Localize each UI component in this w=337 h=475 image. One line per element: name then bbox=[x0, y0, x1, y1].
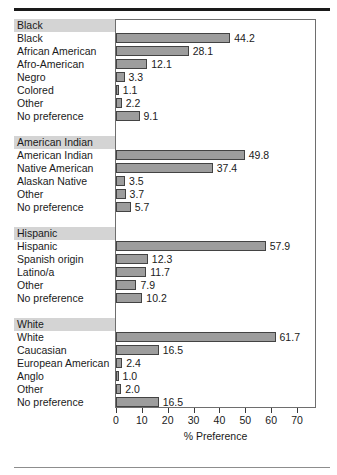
category-row: Black bbox=[14, 32, 115, 45]
x-tick bbox=[168, 408, 169, 413]
category-label: Caucasian bbox=[14, 344, 115, 357]
category-label: Spanish origin bbox=[14, 253, 115, 266]
category-row: Anglo bbox=[14, 370, 115, 383]
x-tick-label: 40 bbox=[207, 414, 231, 426]
category-row: Negro bbox=[14, 71, 115, 84]
plot-frame bbox=[115, 19, 316, 408]
category-label: Other bbox=[14, 188, 115, 201]
category-row: No preference bbox=[14, 110, 115, 123]
x-tick bbox=[245, 408, 246, 413]
category-row: Spanish origin bbox=[14, 253, 115, 266]
category-label-column: BlackBlackAfrican AmericanAfro-AmericanN… bbox=[14, 19, 115, 408]
category-row: Hispanic bbox=[14, 240, 115, 253]
group-header-white: White bbox=[14, 318, 115, 331]
x-tick bbox=[142, 408, 143, 413]
category-row: European American bbox=[14, 357, 115, 370]
category-label: Other bbox=[14, 97, 115, 110]
category-label: Anglo bbox=[14, 370, 115, 383]
x-tick-label: 50 bbox=[233, 414, 257, 426]
group-gap bbox=[14, 123, 115, 136]
category-row: Alaskan Native bbox=[14, 175, 115, 188]
category-row: White bbox=[14, 331, 115, 344]
category-label: Other bbox=[14, 383, 115, 396]
category-label: African American bbox=[14, 45, 115, 58]
group-gap bbox=[14, 305, 115, 318]
category-label: Colored bbox=[14, 84, 115, 97]
bottom-rule bbox=[14, 467, 330, 468]
category-row: No preference bbox=[14, 292, 115, 305]
category-row: Latino/a bbox=[14, 266, 115, 279]
x-tick bbox=[271, 408, 272, 413]
category-label: No preference bbox=[14, 201, 115, 214]
x-tick bbox=[219, 408, 220, 413]
category-label: Black bbox=[14, 32, 115, 45]
category-label: White bbox=[14, 331, 115, 344]
category-row: Other bbox=[14, 279, 115, 292]
group-header-hispanic: Hispanic bbox=[14, 227, 115, 240]
category-row: No preference bbox=[14, 396, 115, 409]
top-rule bbox=[14, 8, 330, 11]
x-tick-label: 60 bbox=[259, 414, 283, 426]
category-row: American Indian bbox=[14, 149, 115, 162]
x-tick-label: 70 bbox=[285, 414, 309, 426]
category-row: Other bbox=[14, 97, 115, 110]
x-tick-label: 20 bbox=[156, 414, 180, 426]
group-header-black: Black bbox=[14, 19, 115, 32]
category-label: Native American bbox=[14, 162, 115, 175]
category-label: Afro-American bbox=[14, 58, 115, 71]
category-row: Colored bbox=[14, 84, 115, 97]
figure-panel: BlackBlackAfrican AmericanAfro-AmericanN… bbox=[0, 0, 337, 475]
category-row: Other bbox=[14, 188, 115, 201]
category-label: American Indian bbox=[14, 149, 115, 162]
category-label: No preference bbox=[14, 110, 115, 123]
category-label: Latino/a bbox=[14, 266, 115, 279]
group-header-american-indian: American Indian bbox=[14, 136, 115, 149]
category-label: No preference bbox=[14, 396, 115, 409]
category-label: Other bbox=[14, 279, 115, 292]
group-gap bbox=[14, 214, 115, 227]
x-tick bbox=[297, 408, 298, 413]
category-label: Alaskan Native bbox=[14, 175, 115, 188]
category-row: No preference bbox=[14, 201, 115, 214]
category-row: Caucasian bbox=[14, 344, 115, 357]
x-tick bbox=[116, 408, 117, 413]
category-row: Other bbox=[14, 383, 115, 396]
x-tick bbox=[194, 408, 195, 413]
category-label: No preference bbox=[14, 292, 115, 305]
category-label: European American bbox=[14, 357, 115, 370]
category-row: African American bbox=[14, 45, 115, 58]
x-axis: 010203040506070 bbox=[115, 408, 316, 448]
category-label: Negro bbox=[14, 71, 115, 84]
category-row: Native American bbox=[14, 162, 115, 175]
x-tick-label: 30 bbox=[182, 414, 206, 426]
category-row: Afro-American bbox=[14, 58, 115, 71]
x-tick-label: 0 bbox=[104, 414, 128, 426]
category-label: Hispanic bbox=[14, 240, 115, 253]
x-tick-label: 10 bbox=[130, 414, 154, 426]
x-axis-title: % Preference bbox=[115, 430, 316, 442]
